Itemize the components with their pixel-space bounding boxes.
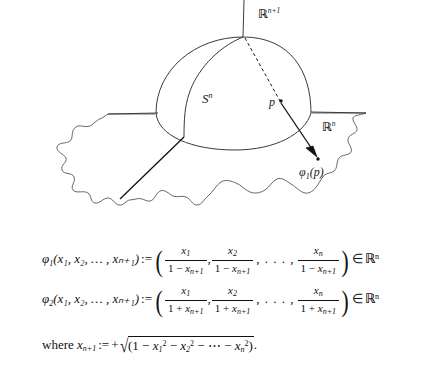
- eq2-codomain-base: ℝ: [365, 291, 375, 306]
- eq1-den-1: 1 − xn+1: [165, 260, 207, 277]
- meridian-curve: [184, 37, 243, 137]
- eq2-den-2: 1 + xn+1: [212, 300, 254, 317]
- eq2-comma-1: ,: [208, 291, 211, 306]
- formula-block: φ1(x₁, x₂, … , xₙ₊₁):=(x11 − xn+1,x21 − …: [0, 232, 426, 390]
- eq3-term-1-exp: 2: [162, 339, 166, 348]
- equation-phi1: φ1(x₁, x₂, … , xₙ₊₁):=(x11 − xn+1,x21 − …: [42, 244, 379, 277]
- eq1-den-n-sub: n+1: [323, 267, 336, 276]
- eq1-den-n-lead: 1: [301, 262, 307, 274]
- chord-line: [120, 137, 184, 199]
- eq1-den-2-sub: n+1: [237, 267, 250, 276]
- label-ambient-space-base: ℝ: [258, 7, 268, 21]
- dashed-ray: [245, 38, 280, 101]
- eq2-den-2-op: +: [223, 302, 229, 314]
- eq1-den-1-lead: 1: [168, 262, 174, 274]
- eq1-arguments: (x₁, x₂, … , xₙ₊₁): [53, 251, 139, 266]
- eq3-radical: √(1 − x12 − x22 − ⋯ − xn2): [119, 336, 254, 355]
- eq1-codomain-exponent: n: [375, 252, 379, 261]
- eq2-den-1-op: +: [176, 302, 182, 314]
- eq3-minus-2: −: [170, 338, 177, 353]
- eq1-fraction-1: x11 − xn+1: [165, 244, 207, 277]
- eq1-den-n-op: −: [309, 262, 315, 274]
- eq2-den-1: 1 + xn+1: [165, 300, 207, 317]
- projection-arrow-shaft: [281, 103, 314, 152]
- eq2-num-1: x1: [165, 284, 207, 300]
- eq2-den-n-lead: 1: [301, 302, 307, 314]
- eq3-term-2-exp: 2: [190, 339, 194, 348]
- label-ambient-space-exponent: n+1: [268, 6, 281, 15]
- eq1-ellipsis: , . . . ,: [256, 251, 294, 266]
- eq2-num-n-sub: n: [319, 289, 323, 298]
- eq1-num-n-sub: n: [319, 249, 323, 258]
- eq2-num-n: xn: [298, 284, 340, 300]
- eq1-num-2-sub: 2: [233, 249, 237, 258]
- eq1-left-paren: (: [155, 250, 162, 272]
- eq1-den-1-sub: n+1: [190, 267, 203, 276]
- equation-where-clause: where xn+1:=+√(1 − x12 − x22 − ⋯ − xn2).: [42, 336, 257, 355]
- vertical-axis-line: [243, 0, 244, 37]
- eq2-den-2-lead: 1: [215, 302, 221, 314]
- eq1-right-paren: ): [341, 250, 348, 272]
- projection-arrow-head: [306, 146, 317, 157]
- eq3-radicand: (1 − x12 − x22 − ⋯ − xn2): [128, 336, 254, 354]
- equator-curve: [156, 113, 311, 150]
- eq1-den-1-op: −: [176, 262, 182, 274]
- label-plane-exponent: n: [332, 119, 336, 128]
- label-ambient-space: ℝn+1: [258, 6, 280, 21]
- eq1-num-1: x1: [165, 244, 207, 260]
- eq2-num-2-sub: 2: [233, 289, 237, 298]
- eq2-fraction-2: x21 + xn+1: [212, 284, 254, 317]
- stereographic-projection-figure: ℝn+1 Sn p ℝn φ1(p): [0, 0, 426, 232]
- image-point-marker: [316, 157, 319, 160]
- eq2-num-1-sub: 1: [186, 289, 190, 298]
- eq2-num-2: x2: [212, 284, 254, 300]
- eq2-right-paren: ): [341, 290, 348, 312]
- eq2-left-paren: (: [155, 290, 162, 312]
- label-sphere-exponent: n: [209, 91, 213, 100]
- eq1-fraction-n: xn1 − xn+1: [298, 244, 340, 277]
- eq1-num-n: xn: [298, 244, 340, 260]
- eq2-den-1-lead: 1: [168, 302, 174, 314]
- dome-outline: [156, 37, 311, 113]
- eq3-body-close: ): [249, 338, 253, 353]
- eq2-den-1-sub: n+1: [190, 307, 203, 316]
- eq3-radical-sign: √: [120, 336, 128, 355]
- eq2-membership: ∈: [352, 291, 363, 306]
- eq1-membership: ∈: [352, 251, 363, 266]
- eq2-ellipsis: , . . . ,: [256, 291, 294, 306]
- eq1-num-1-sub: 1: [186, 249, 190, 258]
- label-plane: ℝn: [322, 119, 336, 134]
- eq1-comma-1: ,: [208, 251, 211, 266]
- label-image-point: φ1(p): [299, 165, 324, 181]
- label-image-point-argument: (p): [310, 165, 324, 179]
- eq1-den-2: 1 − xn+1: [212, 260, 254, 277]
- eq2-fraction-n: xn1 + xn+1: [298, 284, 340, 317]
- eq1-den-2-lead: 1: [215, 262, 221, 274]
- eq3-assign: :=: [98, 337, 109, 352]
- eq2-assign: :=: [141, 291, 152, 306]
- eq2-den-n: 1 + xn+1: [298, 300, 340, 317]
- eq3-lhs-subscript: n+1: [83, 344, 96, 353]
- eq1-assign: :=: [141, 251, 152, 266]
- eq1-num-2: x2: [212, 244, 254, 260]
- eq3-minus-4: −: [224, 338, 231, 353]
- label-point-p: p: [268, 95, 275, 109]
- eq3-minus-1: −: [142, 338, 149, 353]
- eq1-den-2-op: −: [223, 262, 229, 274]
- eq3-ellipsis: ⋯: [208, 338, 221, 353]
- label-sphere: Sn: [202, 91, 213, 106]
- eq3-body-open: (1: [128, 338, 139, 353]
- eq2-arguments: (x₁, x₂, … , xₙ₊₁): [53, 291, 139, 306]
- eq2-codomain-exponent: n: [375, 292, 379, 301]
- eq1-codomain-base: ℝ: [365, 251, 375, 266]
- eq1-den-n: 1 − xn+1: [298, 260, 340, 277]
- eq2-den-n-sub: n+1: [323, 307, 336, 316]
- eq3-period: .: [254, 337, 257, 352]
- eq2-den-2-sub: n+1: [237, 307, 250, 316]
- point-p-marker: [279, 99, 282, 102]
- eq3-where-word: where: [42, 337, 74, 352]
- eq2-fraction-1: x11 + xn+1: [165, 284, 207, 317]
- eq3-minus-3: −: [197, 338, 204, 353]
- eq2-den-n-op: +: [309, 302, 315, 314]
- label-plane-base: ℝ: [322, 120, 332, 134]
